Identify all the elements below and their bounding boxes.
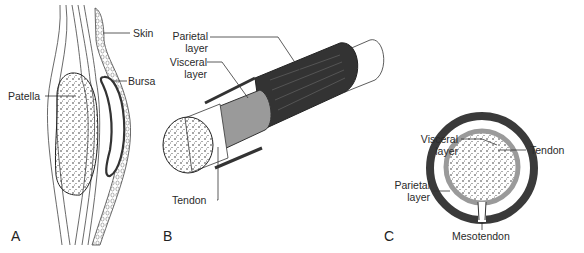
label-skin: Skin (133, 27, 153, 39)
label-parietal-c-1: Parietal (384, 179, 430, 191)
label-patella: Patella (8, 90, 40, 102)
label-mesotendon: Mesotendon (452, 230, 510, 242)
label-bursa: Bursa (128, 75, 155, 87)
label-visceral-c-1: Visceral (412, 133, 458, 145)
label-visceral-b-2: layer (165, 68, 207, 80)
label-parietal-c-2: layer (384, 191, 430, 203)
label-parietal-b-1: Parietal (170, 30, 208, 42)
panel-c-illustration (430, 116, 534, 222)
panel-a-illustration (47, 5, 130, 245)
label-visceral-c-2: layer (412, 145, 458, 157)
panel-label-c: C (384, 228, 394, 244)
anatomy-diagram (0, 0, 584, 253)
panel-label-b: B (163, 228, 172, 244)
label-parietal-b-2: layer (170, 42, 208, 54)
label-tendon-c: Tendon (530, 144, 564, 156)
label-visceral-b-1: Visceral (165, 56, 207, 68)
label-tendon-b: Tendon (172, 194, 206, 206)
panel-label-a: A (11, 228, 20, 244)
